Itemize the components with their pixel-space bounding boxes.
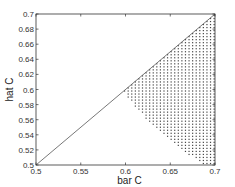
y-tick-label: 0.66 bbox=[18, 40, 34, 49]
y-tick-label: 0.62 bbox=[18, 70, 34, 79]
y-tick-label: 0.58 bbox=[18, 101, 34, 110]
y-axis-label: hat C bbox=[4, 78, 15, 102]
y-tick-label: 0.52 bbox=[18, 146, 34, 155]
y-axis-ticks: 0.50.520.540.560.580.60.620.640.660.680.… bbox=[18, 10, 215, 170]
x-tick-label: 0.7 bbox=[209, 167, 221, 176]
x-tick-label: 0.65 bbox=[162, 167, 178, 176]
x-axis-label: bar C bbox=[117, 175, 141, 186]
y-tick-label: 0.64 bbox=[18, 55, 34, 64]
y-tick-label: 0.6 bbox=[23, 86, 35, 95]
y-tick-label: 0.68 bbox=[18, 25, 34, 34]
x-tick-label: 0.55 bbox=[73, 167, 89, 176]
y-tick-label: 0.54 bbox=[18, 131, 34, 140]
y-tick-label: 0.56 bbox=[18, 116, 34, 125]
feasible-region-dots bbox=[124, 15, 215, 164]
chart: 0.50.550.60.650.7 0.50.520.540.560.580.6… bbox=[0, 0, 235, 187]
y-tick-label: 0.7 bbox=[23, 10, 35, 19]
y-tick-label: 0.5 bbox=[23, 161, 35, 170]
diagonal-line bbox=[36, 14, 215, 165]
